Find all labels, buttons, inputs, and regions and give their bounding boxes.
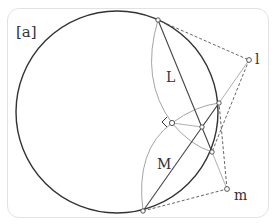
point-F [141, 209, 145, 213]
line-l-B [219, 60, 249, 103]
point-C [169, 120, 174, 125]
point-D [200, 125, 204, 129]
geometry-diagram: [a] L M l m [0, 0, 276, 224]
point-A [156, 18, 160, 22]
right-angle-mark [162, 117, 167, 127]
label-m: m [234, 187, 247, 203]
panel-tag: [a] [16, 23, 37, 41]
label-M: M [157, 156, 171, 172]
point-m [225, 187, 230, 192]
line-m-E [212, 152, 227, 189]
point-l [247, 58, 252, 63]
chord-L [158, 20, 212, 152]
point-B [217, 101, 221, 105]
label-l: l [255, 51, 260, 67]
arc-A-C-E [152, 20, 212, 152]
tangent-m-B [219, 103, 227, 189]
label-L: L [166, 69, 175, 85]
point-E [210, 150, 214, 154]
main-circle [16, 11, 218, 213]
line-C-D [172, 123, 202, 127]
